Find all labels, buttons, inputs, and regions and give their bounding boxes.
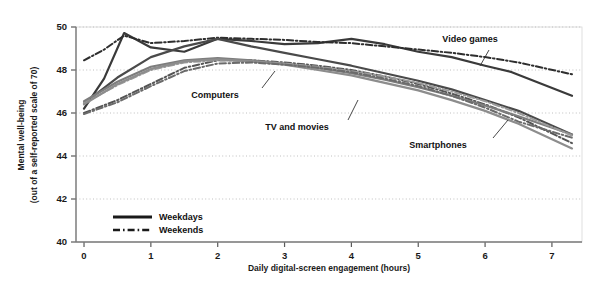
y-axis-title-line2: (out of a self-reported scale of 70) bbox=[29, 67, 39, 204]
x-tick-label-3: 3 bbox=[282, 250, 287, 261]
x-tick-label-5: 5 bbox=[416, 250, 422, 261]
y-tick-label-42: 42 bbox=[56, 193, 67, 204]
legend-label-weekends: Weekends bbox=[159, 225, 203, 235]
annotation-computers: Computers bbox=[191, 90, 239, 100]
x-tick-label-2: 2 bbox=[215, 250, 220, 261]
y-tick-label-50: 50 bbox=[56, 21, 67, 32]
x-tick-label-0: 0 bbox=[81, 250, 86, 261]
y-tick-label-44: 44 bbox=[56, 150, 67, 161]
plot-area bbox=[76, 27, 582, 242]
y-tick-label-46: 46 bbox=[56, 107, 67, 118]
annotation-smartphones: Smartphones bbox=[409, 140, 467, 150]
x-tick-label-7: 7 bbox=[549, 250, 554, 261]
annotation-tv-and-movies: TV and movies bbox=[265, 122, 329, 132]
line-chart: 01234567404244464850 Video gamesComputer… bbox=[0, 0, 610, 288]
annotation-video-games: Video games bbox=[442, 34, 497, 44]
x-axis-title: Daily digital-screen engagement (hours) bbox=[248, 263, 410, 273]
y-tick-label-40: 40 bbox=[56, 236, 67, 247]
y-axis-title-line1: Mental well-being bbox=[16, 100, 26, 171]
y-tick-label-48: 48 bbox=[56, 64, 67, 75]
chart-figure: 01234567404244464850 Video gamesComputer… bbox=[0, 0, 610, 288]
x-tick-label-4: 4 bbox=[349, 250, 355, 261]
legend-label-weekdays: Weekdays bbox=[159, 212, 203, 222]
x-tick-label-6: 6 bbox=[482, 250, 487, 261]
x-tick-label-1: 1 bbox=[148, 250, 154, 261]
